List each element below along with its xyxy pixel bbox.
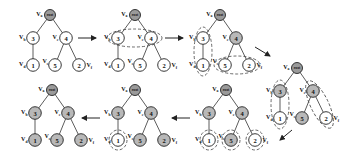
vertex-label: Vf: [87, 62, 93, 70]
vertex-label: Vb: [189, 34, 195, 42]
node-value: 2: [253, 137, 256, 144]
vertex-label: Va: [36, 11, 42, 19]
vertex-label: Ve: [42, 58, 48, 66]
node-value: 1: [278, 115, 281, 122]
vertex-label: Ve: [127, 58, 133, 66]
vertex-label: Vd: [104, 61, 111, 69]
tree-stage-7: rootVa3Vb4Vc1Vd5Ve2Vf: [21, 85, 95, 147]
vertex-label: Va: [212, 86, 218, 94]
flow-arrows: [78, 38, 292, 140]
node-value: root: [132, 13, 139, 17]
node-value: 2: [324, 115, 327, 122]
node-value: root: [132, 88, 139, 92]
node-value: 2: [162, 62, 165, 69]
node-value: 1: [116, 62, 119, 69]
vertex-label: Vc: [222, 34, 228, 42]
tree-stage-4: rootVa3Vb4Vc1Vd5Ve2Vf: [266, 63, 340, 132]
tree-stage-1: rootVa3Vb4Vc1Vd5Ve2Vf: [19, 10, 93, 72]
vertex-label: Vb: [195, 109, 201, 117]
arrow-down-right-icon: [255, 47, 270, 56]
vertex-label: Vb: [266, 87, 272, 95]
vertex-label: Vc: [299, 87, 305, 95]
node-value: 2: [79, 137, 82, 144]
node-value: 2: [77, 62, 80, 69]
node-value: root: [223, 88, 230, 92]
node-value: 1: [201, 62, 204, 69]
vertex-label: Vf: [263, 137, 269, 145]
vertex-label: Vf: [334, 115, 340, 123]
vertex-label: Vb: [19, 34, 25, 42]
arrow-down-left-icon: [280, 130, 292, 140]
vertex-label: Va: [206, 11, 212, 19]
vertex-label: Vf: [257, 62, 263, 70]
vertex-label: Vc: [228, 109, 234, 117]
node-value: root: [217, 13, 224, 17]
vertex-label: Vb: [21, 109, 27, 117]
vertex-label: Va: [283, 64, 289, 72]
vertex-label: Vf: [172, 137, 178, 145]
tree-stage-3: rootVa3Vb4Vc1Vd5Ve2Vf: [189, 10, 263, 77]
vertex-label: Ve: [44, 133, 50, 141]
vertex-label: Vc: [52, 34, 58, 42]
vertex-label: Vb: [104, 109, 110, 117]
vertex-label: Va: [38, 86, 44, 94]
vertex-label: Vc: [54, 109, 60, 117]
vertex-label: Vf: [172, 62, 178, 70]
vertex-label: Va: [121, 86, 127, 94]
node-value: 2: [247, 62, 250, 69]
vertex-label: Vc: [137, 34, 143, 42]
vertex-label: Ve: [127, 133, 133, 141]
vertex-label: Vf: [89, 137, 95, 145]
node-value: 2: [162, 137, 165, 144]
vertex-label: Vd: [21, 136, 28, 144]
node-value: 1: [116, 137, 119, 144]
vertex-label: Va: [121, 11, 127, 19]
vertex-label: Vc: [137, 109, 143, 117]
diagram-canvas: rootVa3Vb4Vc1Vd5Ve2VfrootVa3Vb4Vc1Vd5Ve2…: [0, 0, 350, 158]
node-value: 1: [207, 137, 210, 144]
node-value: 1: [33, 137, 36, 144]
node-value: root: [49, 88, 56, 92]
node-value: root: [47, 13, 54, 17]
vertex-label: Ve: [289, 111, 295, 119]
vertex-label: Ve: [212, 58, 218, 66]
vertex-label: Vb: [104, 34, 110, 42]
tree-stage-2: rootVa3Vb4Vc1Vd5Ve2Vf: [104, 10, 178, 72]
vertex-label: Vd: [19, 61, 26, 69]
node-value: root: [294, 66, 301, 70]
tree-stage-6: rootVa3Vb4Vc1Vd5Ve2Vf: [104, 85, 178, 151]
vertex-label: Vd: [104, 136, 111, 144]
tree-stage-5: rootVa3Vb4Vc1Vd5Ve2Vf: [195, 85, 269, 151]
node-value: 1: [31, 62, 34, 69]
vertex-label: Vd: [195, 136, 202, 144]
